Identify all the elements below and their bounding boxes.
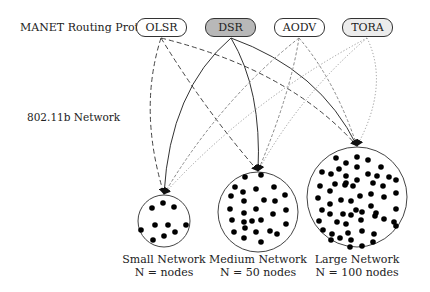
node-dot [253, 186, 259, 192]
node-dot [329, 231, 335, 237]
node-dot [274, 231, 280, 237]
node-dot [348, 212, 354, 218]
node-dot [393, 177, 399, 183]
node-dot [347, 244, 353, 250]
node-dot [241, 219, 247, 225]
node-dot [336, 166, 342, 172]
node-dot [365, 171, 371, 177]
node-dot [368, 203, 374, 209]
node-dot [258, 172, 264, 178]
node-dot [359, 209, 365, 215]
node-dot [358, 217, 364, 223]
network-label-large: Large Network N = 100 nodes [302, 253, 412, 279]
diagram-canvas [0, 0, 430, 292]
node-dot [393, 206, 399, 212]
node-dot [381, 216, 387, 222]
node-dot [319, 169, 325, 175]
node-dot [393, 223, 399, 229]
node-dot [242, 225, 248, 231]
network-row-label: 802.11b Network [27, 111, 120, 123]
node-dot [270, 211, 276, 217]
node-dot [282, 192, 288, 198]
node-dot [165, 222, 171, 228]
node-dot [227, 206, 233, 212]
node-count: N = 100 nodes [302, 266, 412, 279]
node-dot [261, 197, 267, 203]
node-dot [138, 227, 144, 233]
node-dot [228, 193, 234, 199]
protocol-box-dsr: DSR [205, 18, 256, 37]
node-dot [183, 222, 189, 228]
node-dot [368, 191, 374, 197]
network-circle-medium [218, 172, 298, 252]
node-dot [374, 173, 380, 179]
node-dot [354, 154, 360, 160]
protocol-box-aodv: AODV [274, 18, 325, 37]
node-dot [327, 201, 333, 207]
node-dot [337, 235, 343, 241]
node-dot [380, 183, 386, 189]
connection-dsr-medium [231, 38, 258, 171]
node-dot [253, 229, 259, 235]
node-dot [271, 184, 277, 190]
node-dot [381, 194, 387, 200]
network-circles [138, 147, 407, 252]
node-dot [365, 157, 371, 163]
node-dot [359, 228, 365, 234]
connection-olsr-large [161, 38, 357, 146]
node-dot [354, 177, 360, 183]
node-dot [345, 230, 351, 236]
node-dot [316, 218, 322, 224]
node-dot [334, 219, 340, 225]
node-count: N = 50 nodes [203, 266, 313, 279]
node-dot [370, 239, 376, 245]
node-dot [370, 180, 376, 186]
node-dot [353, 207, 359, 213]
node-dot [372, 213, 378, 219]
node-dot [242, 174, 248, 180]
node-dot [332, 181, 338, 187]
node-dot [267, 228, 273, 234]
connection-olsr-small [150, 38, 164, 194]
network-circle-large [307, 147, 407, 250]
node-dot [149, 205, 155, 211]
node-dot [348, 198, 354, 204]
node-dot [333, 155, 339, 161]
node-dot [150, 237, 156, 243]
node-dot [371, 231, 377, 237]
node-dot [342, 182, 348, 188]
node-dot [161, 233, 167, 239]
network-name: Large Network [302, 253, 412, 266]
node-dot [249, 218, 255, 224]
node-dot [340, 211, 346, 217]
node-dot [241, 235, 247, 241]
protocol-box-olsr: OLSR [136, 18, 187, 37]
node-dot [343, 173, 349, 179]
connection-dsr-small [164, 38, 231, 194]
node-dot [272, 198, 278, 204]
node-dot [317, 183, 323, 189]
connection-olsr-medium [161, 38, 258, 171]
node-dot [350, 183, 356, 189]
node-dot [359, 243, 365, 249]
node-dot [152, 222, 158, 228]
node-dot [241, 198, 247, 204]
node-dot [283, 221, 289, 227]
node-dot [320, 227, 326, 233]
node-dot [258, 239, 264, 245]
node-dot [393, 190, 399, 196]
network-circle-small [138, 195, 190, 247]
node-dot [319, 207, 325, 213]
node-dot [343, 221, 349, 227]
node-dot [348, 237, 354, 243]
manet-diagram: MANET Routing Protocol 802.11b Network O… [0, 0, 430, 292]
node-dot [160, 200, 166, 206]
node-dot [231, 229, 237, 235]
node-dot [315, 195, 321, 201]
node-dot [258, 217, 264, 223]
node-dot [327, 211, 333, 217]
node-dot [241, 210, 247, 216]
node-dot [253, 206, 259, 212]
node-dot [172, 229, 178, 235]
network-name: Medium Network [203, 253, 313, 266]
